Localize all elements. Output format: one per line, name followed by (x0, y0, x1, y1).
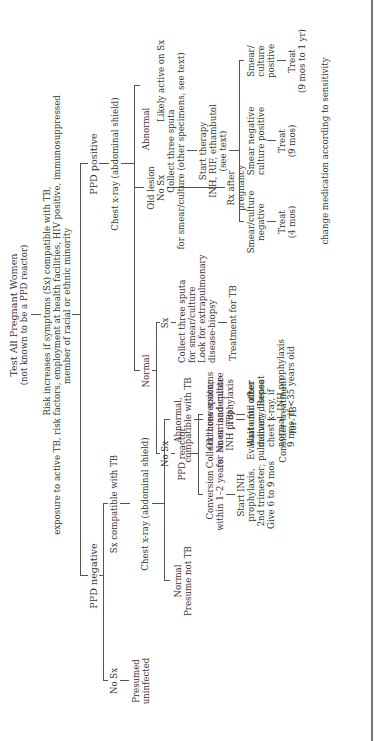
pos-no-sx: No Sx (160, 441, 170, 467)
treatment-for-tb: Treatment for TB (228, 285, 238, 361)
rx-after-line-2: pregnancy (236, 165, 246, 211)
old-conversion-line-2: No or inadequate (215, 377, 225, 453)
change-medication: change medication according to sensitivi… (320, 57, 330, 244)
collect-three-line-2: for smear/culture (other specimens, see … (176, 52, 186, 249)
old-lesion-line-2: No Sx (156, 175, 166, 201)
connector (267, 221, 276, 222)
connector (226, 494, 235, 495)
conversion-line-2: within 1–2 years (215, 459, 225, 531)
connector (239, 60, 244, 61)
rx-after-line-1: Rx after (226, 170, 236, 205)
pos-xray-split (134, 86, 135, 371)
collect-sputa-line-2: for smear/culture (187, 287, 197, 363)
connector (198, 414, 203, 415)
collect-sputa-line-1: Collect three sputa (177, 280, 187, 363)
wait-until-line-5: 9 mos, if <35 years old (286, 346, 296, 447)
connector (171, 322, 176, 323)
risk-line-1: Risk increases if symptoms (Sx) compatib… (42, 187, 52, 416)
collect-sputa-line-4: disease-biopsy (207, 300, 217, 363)
collect-sputa-line-3: Look for extrapulmonary (197, 254, 207, 363)
main-split-line (80, 164, 81, 576)
bottom-rule (371, 0, 373, 741)
treat-9-1yr-line-2: (9 mos to 1 yr) (297, 29, 307, 93)
connector (239, 221, 244, 222)
smear-culture-pos-line-3: positive (266, 44, 276, 78)
treat-4-line-1: Treat (277, 210, 287, 234)
tb-screening-flowchart: Test All Pregnant Women (not known to be… (0, 0, 380, 741)
connector (134, 370, 140, 371)
pos-chest-xray: Chest x-ray (abdominal shield) (110, 97, 120, 230)
neg-no-sx: No Sx (109, 668, 119, 694)
smear-neg-culture-pos-line-2: culture positive (256, 107, 266, 175)
smear-culture-neg-line-1: Smear/culture (246, 191, 256, 254)
connector (134, 187, 144, 188)
connector (134, 85, 140, 86)
connector (171, 453, 175, 454)
connector (120, 503, 130, 504)
wait-until-line-1: Wait until after (246, 381, 256, 447)
old-lesion-line-1: Old lesion (146, 166, 156, 210)
ppd-positive-label: PPD positive (88, 133, 99, 195)
treat-4-line-2: (4 mos) (287, 206, 297, 239)
connector (188, 453, 198, 454)
presumed-line-1: Presumed (131, 659, 141, 703)
connector (198, 494, 203, 495)
connector (99, 163, 109, 164)
conversion-line-1: Conversion (205, 470, 215, 519)
ppd-negative-label: PPD negative (88, 543, 99, 608)
therapy-split (239, 61, 240, 222)
neg-normal-line-1: Normal (173, 565, 183, 598)
connector (236, 419, 245, 420)
connector (164, 580, 170, 581)
connector (277, 60, 286, 61)
wait-until-line-4: normal, INH prophylaxis (276, 339, 286, 447)
connector (103, 503, 108, 504)
likely-active: Likely active on Sx (156, 40, 166, 122)
connector (229, 150, 239, 151)
start-inh-line-2: prophylaxis, (246, 468, 256, 521)
neg-normal-line-2: Presume not TB (183, 546, 193, 616)
ppd-reactor: PPD reactor (177, 427, 187, 480)
old-conversion-line-3: INH prophylaxis (225, 379, 235, 451)
reactor-split (198, 415, 199, 495)
connector (152, 503, 164, 504)
wait-until-line-2: delivery; Repeat (256, 376, 266, 447)
risk-line-2: exposure to active TB, risk factors, emp… (52, 95, 62, 535)
start-therapy-line-2: INH, RIF, ethambutol (208, 104, 218, 198)
smear-neg-culture-pos-line-1: Smear negative (246, 107, 256, 175)
connector (80, 163, 88, 164)
smear-culture-pos-line-1: Smear/ (246, 45, 256, 76)
connector (218, 322, 227, 323)
wait-until-line-3: chest x-ray, if (266, 389, 276, 447)
start-inh-line-3: 2nd trimester; (256, 464, 266, 527)
treat-9-line-1: Treat (277, 129, 287, 153)
connector (267, 140, 276, 141)
presumed-line-2: uninfected (141, 658, 151, 704)
smear-culture-pos-line-2: culture (256, 45, 266, 76)
connector (31, 314, 41, 315)
root-title: Test All Pregnant Women (8, 253, 19, 376)
start-therapy-line-1: Start therapy (198, 122, 208, 180)
smear-culture-neg-line-2: negative (256, 203, 266, 240)
connector (80, 575, 88, 576)
start-inh-line-1: Start INH (236, 473, 246, 516)
connector (103, 680, 108, 681)
neg-chest-xray: Chest x-ray (abdominal shield) (140, 437, 150, 570)
neg-split-line (103, 504, 104, 681)
connector (236, 414, 245, 415)
normal-split (156, 323, 157, 454)
connector (120, 680, 129, 681)
root-subtitle: (not known to be a PPD reactor) (19, 245, 29, 386)
pos-sx: Sx (160, 318, 170, 329)
pos-abnormal: Abnormal (141, 108, 151, 151)
pos-normal: Normal (141, 355, 151, 388)
sx-compatible-tb: Sx compatible with TB (109, 455, 119, 553)
old-conversion-line-1: Old conversion; (205, 381, 215, 449)
connector (187, 150, 197, 151)
connector (121, 163, 134, 164)
connector (164, 419, 170, 420)
treat-9-line-2: (9 mos) (287, 125, 297, 158)
risk-line-3: member of racial or ethnic minority (62, 228, 72, 384)
start-inh-line-4: Give 6 to 9 mos (266, 461, 276, 529)
start-therapy-line-3: (see text) (218, 131, 228, 172)
